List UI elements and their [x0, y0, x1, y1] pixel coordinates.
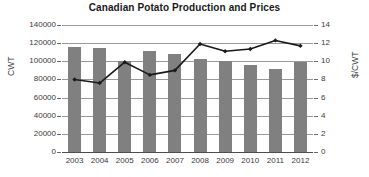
y-axis-left-tick-label: 80000: [0, 75, 56, 83]
y-axis-right-tick-label: 6: [321, 94, 347, 102]
y-axis-left-tick: [57, 61, 61, 62]
x-axis-tick-label: 2012: [285, 156, 315, 165]
price-line-marker: [72, 77, 76, 81]
axis-baseline: [62, 152, 313, 153]
y-axis-right-tick: [314, 152, 318, 153]
chart-container: Canadian Potato Production and Prices CW…: [0, 0, 369, 177]
y-axis-right-tick: [314, 98, 318, 99]
chart-title: Canadian Potato Production and Prices: [0, 2, 369, 13]
y-axis-right-tick-label: 4: [321, 112, 347, 120]
plot-area: [62, 25, 313, 152]
y-axis-left-tick: [57, 25, 61, 26]
y-axis-right-title: $/CWT: [350, 52, 360, 78]
y-axis-right-tick: [314, 116, 318, 117]
y-axis-right-tick-label: 12: [321, 39, 347, 47]
price-line-marker: [273, 38, 277, 42]
y-axis-left-tick-label: 20000: [0, 130, 56, 138]
y-axis-right-tick-label: 0: [321, 148, 347, 156]
y-axis-right-tick: [314, 61, 318, 62]
y-axis-left-tick: [57, 152, 61, 153]
y-axis-left-tick-label: 60000: [0, 94, 56, 102]
y-axis-left-tick-label: 120000: [0, 39, 56, 47]
y-axis-left-tick: [57, 79, 61, 80]
y-axis-right-tick-label: 14: [321, 21, 347, 29]
price-line-path: [75, 40, 301, 83]
y-axis-left-tick: [57, 116, 61, 117]
y-axis-right-tick: [314, 25, 318, 26]
y-axis-left-tick: [57, 98, 61, 99]
y-axis-left-tick-label: 140000: [0, 21, 56, 29]
y-axis-right-tick-label: 8: [321, 75, 347, 83]
price-line-marker: [298, 44, 302, 48]
y-axis-left-tick-label: 0: [0, 148, 56, 156]
line-series-price: [62, 25, 313, 152]
y-axis-right-tick-label: 2: [321, 130, 347, 138]
y-axis-right-tick: [314, 79, 318, 80]
y-axis-right-tick: [314, 43, 318, 44]
y-axis-right-tick-label: 10: [321, 57, 347, 65]
y-axis-right-tick: [314, 134, 318, 135]
y-axis-left-tick-label: 40000: [0, 112, 56, 120]
price-line-marker: [223, 49, 227, 53]
y-axis-left-tick: [57, 43, 61, 44]
y-axis-left-tick-label: 100000: [0, 57, 56, 65]
price-line-marker: [248, 47, 252, 51]
y-axis-left-tick: [57, 134, 61, 135]
